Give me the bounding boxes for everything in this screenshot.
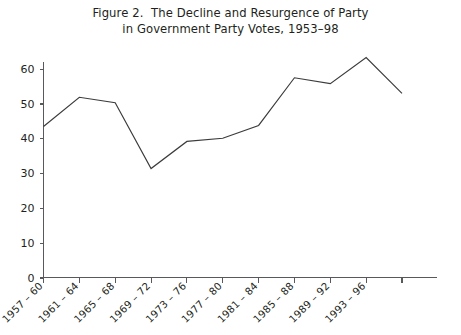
figure-container: Figure 2. The Decline and Resurgence of … bbox=[0, 0, 461, 335]
x-axis-tick-marks bbox=[44, 278, 403, 283]
y-axis-tick-label: 20 bbox=[21, 202, 35, 215]
line-chart-plot: 0102030405060 1957 – 601961 – 641965 – 6… bbox=[0, 0, 461, 335]
y-axis-tick-labels: 0102030405060 bbox=[21, 63, 35, 285]
y-axis-tick-label: 30 bbox=[21, 167, 35, 180]
data-series-line bbox=[44, 58, 403, 169]
y-axis-tick-label: 40 bbox=[21, 132, 35, 145]
y-axis-tick-marks bbox=[40, 69, 44, 278]
y-axis-tick-label: 10 bbox=[21, 237, 35, 250]
y-axis-tick-label: 60 bbox=[21, 63, 35, 76]
x-axis-tick-labels: 1957 – 601961 – 641965 – 681969 – 721973… bbox=[0, 280, 367, 325]
y-axis-tick-label: 50 bbox=[21, 98, 35, 111]
